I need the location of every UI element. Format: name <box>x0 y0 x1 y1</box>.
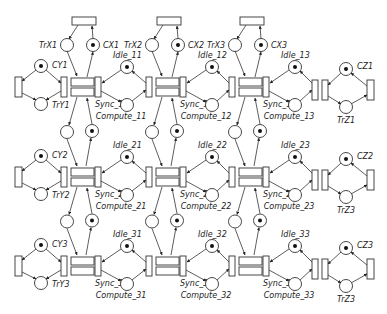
token-icon <box>210 244 214 248</box>
between-empty-place <box>146 126 159 139</box>
top-transition <box>157 17 181 25</box>
arc <box>152 51 162 76</box>
arc <box>270 249 289 262</box>
token-icon <box>344 157 348 161</box>
sync-transition-lower <box>239 267 262 275</box>
sync-transition-lower <box>156 88 179 96</box>
place-label: TrY3 <box>52 280 70 289</box>
sync-left-transition <box>61 167 67 187</box>
arc <box>217 269 229 280</box>
place-label: TrY1 <box>52 101 70 110</box>
arc <box>152 229 162 256</box>
sync-right-transition <box>95 256 101 276</box>
sync-left-transition <box>61 77 67 97</box>
token-icon <box>39 154 43 158</box>
top-transition <box>72 17 96 25</box>
sync-transition-lower <box>71 267 94 275</box>
place-label: TrX1 <box>39 41 57 50</box>
arc <box>328 252 341 264</box>
arc <box>86 138 91 166</box>
place-label: Compute_23 <box>264 202 315 211</box>
arc <box>187 70 206 83</box>
compute-place <box>121 99 134 112</box>
far-right-transition <box>367 170 374 190</box>
place-label: Idle_13 <box>281 51 310 60</box>
arc <box>102 70 121 83</box>
trz-place <box>340 101 353 114</box>
compute-place <box>289 99 302 112</box>
sync-left-transition <box>229 167 235 187</box>
place-label: CY3 <box>52 240 68 249</box>
token-icon <box>259 43 263 47</box>
arc <box>154 187 162 215</box>
sync-right-transition <box>95 167 101 187</box>
right-transition-a <box>312 170 318 190</box>
token-icon <box>39 243 43 247</box>
arc <box>22 183 36 190</box>
arc <box>255 188 260 214</box>
place-label: Compute_32 <box>181 291 232 300</box>
token-icon <box>258 219 262 223</box>
arc <box>46 70 61 83</box>
arc <box>87 52 93 77</box>
place-label: CX3 <box>271 41 287 50</box>
trx-place <box>229 39 242 52</box>
try-place <box>35 188 48 201</box>
sync-transition-lower <box>71 178 94 186</box>
arc <box>260 26 261 39</box>
arc <box>328 163 341 175</box>
arc <box>217 180 229 191</box>
sync-transition-upper <box>71 168 94 176</box>
arc <box>300 269 312 280</box>
arc <box>300 71 312 83</box>
trx-place <box>146 39 159 52</box>
arc <box>172 98 177 124</box>
arc <box>177 26 178 39</box>
arc <box>171 138 176 166</box>
arc <box>187 249 206 262</box>
arc <box>217 161 229 173</box>
place-label: Idle_33 <box>281 230 310 239</box>
right-transition-a <box>312 80 318 100</box>
token-icon <box>293 244 297 248</box>
sync-right-transition <box>180 167 186 187</box>
place-label: TrX2 <box>124 41 142 50</box>
far-right-transition <box>367 259 374 279</box>
token-icon <box>293 65 297 69</box>
place-label: CY1 <box>52 61 68 70</box>
arc <box>172 188 177 214</box>
arc <box>351 185 367 194</box>
arc <box>46 249 61 262</box>
token-icon <box>258 129 262 133</box>
place-label: CX1 <box>103 41 119 50</box>
arc <box>46 270 61 279</box>
place-label: TrZ3 <box>337 206 355 215</box>
compute-place <box>121 189 134 202</box>
try-place <box>35 98 48 111</box>
arc <box>102 160 121 173</box>
sync-transition-upper <box>71 78 94 86</box>
place-label: CZ2 <box>357 152 373 161</box>
sync-left-transition <box>229 77 235 97</box>
arc <box>255 98 260 124</box>
arc <box>237 25 246 39</box>
arc <box>22 272 36 279</box>
arc <box>328 186 341 194</box>
sync-transition-upper <box>239 168 262 176</box>
arc <box>217 71 229 83</box>
compute-place <box>206 278 219 291</box>
arc <box>254 138 259 166</box>
between-empty-place <box>61 126 74 139</box>
token-icon <box>175 129 179 133</box>
arc <box>255 52 261 77</box>
sync-transition-upper <box>156 257 179 265</box>
sync-right-transition <box>263 256 269 276</box>
token-icon <box>210 155 214 159</box>
sync-right-transition <box>263 77 269 97</box>
place-label: Idle_22 <box>198 141 227 150</box>
token-icon <box>210 65 214 69</box>
token-icon <box>90 129 94 133</box>
token-icon <box>344 67 348 71</box>
sync-right-transition <box>95 77 101 97</box>
between-empty-place <box>61 215 74 228</box>
